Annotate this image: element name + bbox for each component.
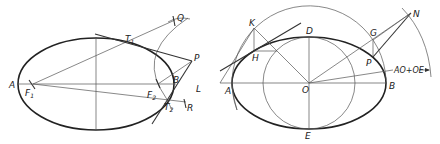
right-line-L-K: [220, 28, 254, 83]
left-figure: A F1 F2 T1 T2 B P Q R: [8, 13, 200, 130]
right-label-H: H: [252, 53, 259, 63]
right-label-K: K: [249, 18, 256, 28]
left-line-F1-Q: [33, 20, 175, 84]
left-tick-R: [184, 99, 186, 108]
right-label-P: P: [366, 58, 372, 68]
left-label-T2: T2: [164, 102, 174, 113]
left-label-A: A: [8, 80, 15, 90]
left-label-P: P: [194, 53, 200, 63]
ellipse-construction-diagram: A F1 F2 T1 T2 B P Q R: [0, 0, 440, 144]
right-label-B: B: [389, 81, 395, 91]
right-label-radius-note: AO+OE: [393, 66, 425, 75]
right-label-D: D: [306, 26, 313, 36]
right-line-O-note: [309, 70, 393, 83]
right-label-L: L: [196, 84, 201, 94]
left-tick-F2: [156, 79, 160, 88]
left-label-F1: F1: [25, 88, 34, 99]
right-line-O-K: [254, 28, 309, 83]
right-label-A: A: [224, 86, 231, 96]
left-label-Q: Q: [177, 13, 184, 23]
left-label-R: R: [187, 103, 193, 113]
left-label-F2: F2: [147, 90, 156, 101]
left-tangent-T1: [95, 34, 192, 61]
left-tangent-T2: [152, 61, 192, 124]
left-label-T1: T1: [125, 34, 134, 45]
right-figure: K H L A D O E B G P N AO+OE: [196, 6, 431, 141]
left-label-B: B: [173, 75, 179, 85]
right-tangent-at-H: [220, 23, 301, 71]
right-label-E: E: [305, 131, 311, 141]
right-label-N: N: [413, 9, 420, 19]
right-label-O: O: [302, 85, 309, 95]
right-arrow-head: [425, 68, 430, 72]
right-line-G-N: [373, 13, 411, 40]
right-label-G: G: [370, 28, 377, 38]
